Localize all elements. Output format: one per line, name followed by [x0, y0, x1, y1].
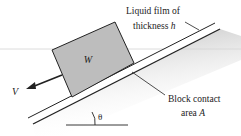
angle-label: θ	[98, 112, 102, 122]
contact-label-line2: area A	[181, 108, 205, 118]
inclined-plane-diagram: W V Liquid film of thickness h Block con…	[0, 0, 241, 136]
velocity-label: V	[12, 86, 20, 97]
velocity-arrowhead-icon	[26, 82, 36, 89]
film-label-line1: Liquid film of	[126, 6, 181, 16]
contact-label-line1: Block contact	[168, 94, 221, 104]
velocity-arrow	[32, 75, 62, 87]
film-leader-line	[185, 22, 199, 30]
film-label-line2: thickness h	[133, 21, 176, 31]
